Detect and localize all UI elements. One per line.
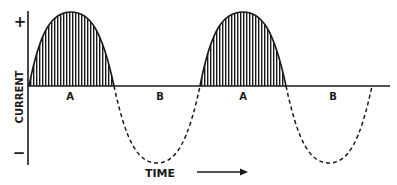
arrow-right-icon (240, 169, 248, 176)
half-cycle-label-a1: A (66, 91, 74, 102)
y-axis-label: CURRENT (14, 70, 25, 123)
half-cycle-a1-fill (29, 12, 114, 86)
half-cycle-label-a2: A (239, 91, 247, 102)
half-cycle-a2-fill (200, 12, 286, 86)
y-negative-label: − (13, 144, 26, 162)
y-positive-label: + (14, 13, 27, 31)
waveform-diagram: + − CURRENT TIME A B A B (0, 0, 397, 185)
x-axis-label: TIME (145, 167, 175, 180)
half-cycle-label-b2: B (329, 91, 337, 102)
half-cycle-label-b1: B (156, 91, 164, 102)
